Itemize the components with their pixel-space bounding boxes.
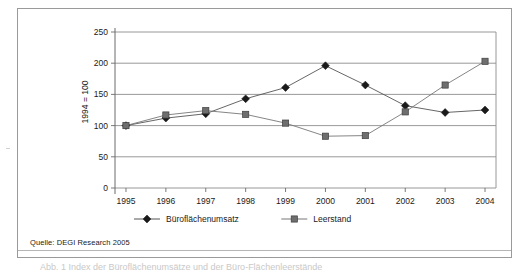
y-tick-label-group: 050100150200250 — [94, 27, 108, 193]
series-1-marker — [282, 84, 290, 92]
y-tick-label: 100 — [94, 121, 108, 131]
x-tick-label: 1996 — [156, 196, 175, 206]
y-tick-label: 50 — [99, 152, 109, 162]
source-divider — [18, 250, 511, 251]
series-2-marker — [482, 58, 488, 64]
series-2-marker — [203, 108, 209, 114]
series-line-2 — [126, 61, 485, 136]
legend-item-2: Leerstand — [281, 214, 351, 224]
y-tick-label: 0 — [103, 183, 108, 193]
figure-caption-partial: Abb. 1 Index der Büroflächenumsätze und … — [40, 262, 521, 271]
y-tick-label: 150 — [94, 89, 108, 99]
chart-plot-area: 050100150200250 199519961997199819992000… — [18, 9, 511, 257]
series-1-marker — [481, 106, 489, 114]
x-tick-label: 2003 — [436, 196, 455, 206]
x-tick-label: 1998 — [236, 196, 255, 206]
y-axis-title-group: 1994 = 100 — [80, 80, 90, 123]
series-2-marker — [123, 123, 129, 129]
x-tick-label: 2004 — [476, 196, 495, 206]
series-line-group — [126, 61, 485, 136]
x-tick-label: 2001 — [356, 196, 375, 206]
page-margin-mark — [6, 148, 10, 149]
legend-label: Büroflächenumsatz — [166, 214, 239, 224]
series-2-marker — [362, 132, 368, 138]
series-1-marker — [361, 81, 369, 89]
legend-label: Leerstand — [313, 214, 351, 224]
x-tick-label: 1999 — [276, 196, 295, 206]
y-tick-label: 200 — [94, 58, 108, 68]
series-2-marker — [163, 112, 169, 118]
series-line-1 — [126, 66, 485, 126]
series-1-marker — [441, 109, 449, 117]
figure-frame: 050100150200250 199519961997199819992000… — [17, 8, 512, 258]
y-tick-label: 250 — [94, 27, 108, 37]
series-1-marker — [401, 102, 409, 110]
y-axis-title: 1994 = 100 — [80, 80, 90, 123]
source-note: Quelle: DEGI Research 2005 — [30, 238, 130, 247]
line-chart: 050100150200250 199519961997199819992000… — [18, 9, 513, 259]
x-tick-label: 2002 — [396, 196, 415, 206]
gridline-group — [115, 32, 496, 188]
legend-marker — [291, 216, 297, 222]
series-2-marker — [322, 133, 328, 139]
series-2-marker — [442, 82, 448, 88]
x-tick-label: 1997 — [196, 196, 215, 206]
series-marker-group — [122, 58, 489, 139]
series-2-marker — [402, 109, 408, 115]
legend-marker — [143, 215, 151, 223]
legend-item-1: Büroflächenumsatz — [134, 214, 239, 224]
x-tick-label: 2000 — [316, 196, 335, 206]
series-2-marker — [282, 120, 288, 126]
x-tick-label: 1995 — [117, 196, 136, 206]
chart-legend: BüroflächenumsatzLeerstand — [134, 214, 351, 224]
x-tick-label-group: 1995199619971998199920002001200220032004 — [117, 196, 495, 206]
series-1-marker — [242, 95, 250, 103]
series-2-marker — [243, 111, 249, 117]
